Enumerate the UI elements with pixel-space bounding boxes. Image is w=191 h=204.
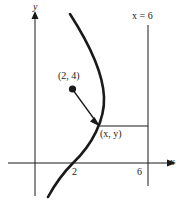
curve-point-label: (x, y) <box>100 129 122 139</box>
x-tick-label-2: 2 <box>72 167 77 177</box>
figure-canvas <box>0 0 191 204</box>
vertical-line-label: x = 6 <box>132 11 153 21</box>
y-axis-arrowhead <box>32 11 39 19</box>
x-tick-label-6: 6 <box>137 167 142 177</box>
distance-segment <box>73 90 100 127</box>
y-axis-label: y <box>33 2 37 12</box>
y-axis <box>32 11 39 196</box>
segment-arrowhead <box>90 117 100 127</box>
x-axis-label: x <box>170 157 174 167</box>
fixed-point-dot <box>69 85 76 92</box>
x-axis <box>8 160 176 167</box>
math-figure: y x 2 6 x = 6 (2, 4) (x, y) <box>0 0 191 204</box>
fixed-point-label: (2, 4) <box>58 71 80 81</box>
